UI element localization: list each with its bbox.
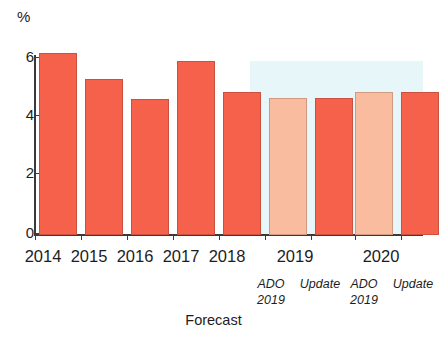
x-tickmark-8	[401, 235, 402, 240]
bar-2019-update-2019	[315, 98, 353, 235]
x-label-2018: 2018	[202, 247, 252, 266]
x-sublabel-2019-ado-line2: 2019	[248, 293, 294, 309]
y-tick-4: 4	[0, 106, 34, 123]
y-tick-2: 2	[0, 164, 34, 181]
x-tickmark-1	[81, 235, 82, 240]
bar-2020-ado-2019	[355, 92, 393, 235]
x-tickmark-3	[173, 235, 174, 240]
x-sublabel-2020-update-line1: Update	[385, 277, 441, 293]
x-sublabel-2020-ado-line2: 2019	[341, 293, 387, 309]
x-tickmark-2	[127, 235, 128, 240]
bar-2017	[177, 61, 215, 235]
x-label-2014: 2014	[18, 247, 68, 266]
x-tickmark-7	[355, 235, 356, 240]
x-sublabel-2019-update: Update	[292, 277, 348, 293]
y-tick-2-label: 2	[26, 164, 34, 181]
x-sublabel-2019-ado: ADO 2019	[248, 277, 294, 308]
x-label-2019: 2019	[252, 247, 338, 266]
bar-2015	[85, 79, 123, 235]
x-tickmark-5	[265, 235, 266, 240]
bar-2018	[223, 92, 261, 235]
x-tickmark-4	[219, 235, 220, 240]
y-axis-unit-label: %	[17, 8, 30, 25]
bar-2019-ado-2019	[269, 98, 307, 235]
x-label-2016: 2016	[110, 247, 160, 266]
x-label-2015: 2015	[64, 247, 114, 266]
forecast-caption: Forecast	[0, 312, 427, 328]
x-sublabel-2020-ado-line1: ADO	[341, 277, 387, 293]
x-tickmark-6	[311, 235, 312, 240]
y-tick-6-label: 6	[26, 48, 34, 65]
x-tickmark-0	[35, 235, 36, 240]
x-sublabel-2020-ado: ADO 2019	[341, 277, 387, 308]
bar-2016	[131, 99, 169, 235]
y-tick-0: 0	[0, 224, 34, 241]
x-sublabel-2019-update-line1: Update	[292, 277, 348, 293]
plot-area	[35, 50, 423, 235]
y-tick-0-label: 0	[26, 224, 34, 241]
y-tick-6: 6	[0, 48, 34, 65]
x-label-2017: 2017	[156, 247, 206, 266]
x-label-2020: 2020	[338, 247, 424, 266]
x-sublabel-2020-update: Update	[385, 277, 441, 293]
x-sublabel-2019-ado-line1: ADO	[248, 277, 294, 293]
bar-2014	[39, 53, 77, 235]
bar-2020-update-2019	[401, 92, 439, 235]
y-tick-4-label: 4	[26, 106, 34, 123]
